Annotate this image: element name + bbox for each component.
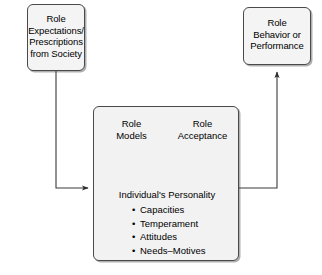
personality-title: Individual's Personality xyxy=(94,189,240,201)
node-role-expectations-line4: from Society xyxy=(28,48,84,60)
node-role-behavior-line3: Performance xyxy=(244,40,310,52)
label-role-acceptance-line2: Acceptance xyxy=(167,130,238,142)
label-role-acceptance-line1: Role xyxy=(167,118,238,130)
node-individual-personality: Role Models Role Acceptance Individual's… xyxy=(93,106,239,261)
list-item: Needs–Motives xyxy=(132,244,240,258)
label-role-acceptance: Role Acceptance xyxy=(167,118,240,141)
connector-individual-to-behavior xyxy=(239,72,277,188)
label-role-models-line2: Models xyxy=(96,130,167,142)
node-role-behavior-line2: Behavior or xyxy=(244,29,310,41)
inner-heading-row: Role Models Role Acceptance xyxy=(94,118,240,141)
node-role-expectations: Role Expectations/ Prescriptions from So… xyxy=(27,4,85,71)
node-role-behavior: Role Behavior or Performance xyxy=(243,7,311,65)
node-role-expectations-line2: Expectations/ xyxy=(28,25,84,37)
node-role-behavior-line1: Role xyxy=(244,17,310,29)
list-item: Attitudes xyxy=(132,230,240,244)
node-role-expectations-line3: Prescriptions xyxy=(28,36,84,48)
personality-block: Individual's Personality Capacities Temp… xyxy=(94,189,240,257)
list-item: Temperament xyxy=(132,217,240,231)
diagram-canvas: Role Expectations/ Prescriptions from So… xyxy=(0,0,322,275)
personality-list: Capacities Temperament Attitudes Needs–M… xyxy=(94,203,240,257)
label-role-models-line1: Role xyxy=(96,118,167,130)
node-role-expectations-line1: Role xyxy=(28,13,84,25)
connector-expectations-to-individual xyxy=(56,71,88,188)
label-role-models: Role Models xyxy=(94,118,167,141)
list-item: Capacities xyxy=(132,203,240,217)
